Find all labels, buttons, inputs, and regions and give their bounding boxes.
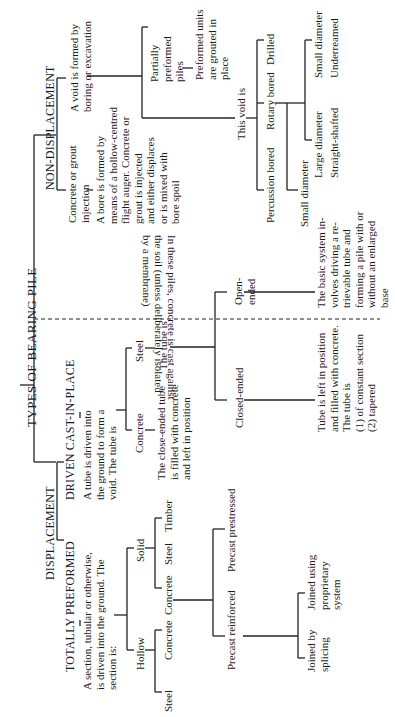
small-diameter-percussion-label: Small diameter	[298, 160, 311, 227]
steel-tube-label: Steel	[133, 340, 146, 362]
percussion-bored-label: Percussion bored	[264, 148, 277, 223]
driven-cast-in-place-heading: DRIVEN CAST-IN-PLACE	[64, 359, 77, 500]
straight-shafted-label: Straight-shafted	[328, 108, 341, 178]
precast-prestressed-label: Precast prestressed	[225, 489, 238, 572]
solid-steel-label: Steel	[162, 543, 175, 565]
displacement-heading: DISPLACEMENT	[44, 486, 57, 580]
grout-injection-label: Concrete or grout injection	[66, 145, 91, 223]
closed-ended-description: Tube is left in position and filled with…	[315, 325, 378, 432]
joined-proprietary-label: Joined using proprietary system	[305, 555, 343, 610]
solid-label: Solid	[134, 539, 147, 562]
this-void-is-label: This void is	[235, 88, 248, 140]
open-ended-label: Open- ended	[232, 278, 257, 306]
hollow-steel-label: Steel	[162, 690, 175, 712]
hollow-concrete-label: Concrete	[162, 620, 175, 660]
open-ended-description: The basic system in- volves driving a re…	[315, 211, 390, 308]
driven-cast-in-place-description: A tube is driven into the ground to form…	[81, 410, 119, 500]
partially-preformed-description: Preformed units are grouted in place	[193, 9, 231, 80]
steel-tube-is-label: The tube is	[157, 321, 170, 370]
closed-ended-label: Closed-ended	[233, 368, 246, 428]
rotary-bored-label: Rotary bored	[264, 72, 277, 130]
precast-reinforced-label: Precast reinforced	[225, 590, 238, 670]
partially-preformed-label: Partially preformed piles	[148, 36, 186, 82]
totally-preformed-heading: TOTALLY PREFORMED	[64, 541, 77, 672]
void-formed-label: A void is formed by boring or excavation	[68, 21, 93, 112]
grout-injection-description: A bore is formed by means of a hollow-ce…	[94, 107, 182, 224]
drilled-label: Drilled	[264, 34, 277, 65]
totally-preformed-description: A section, tubular or otherwise, is driv…	[81, 552, 119, 690]
concrete-tube-label: Concrete	[133, 413, 146, 453]
concrete-tube-description: The close-ended tube is filled with conc…	[155, 384, 193, 480]
bearing-pile-diagram: TYPES OF BEARING PILE NON-DISPLACEMENT C…	[0, 0, 395, 717]
hollow-label: Hollow	[134, 637, 147, 670]
solid-timber-label: Timber	[162, 500, 175, 532]
small-diameter-label: Small diameter	[312, 11, 325, 78]
divider-note: In these piles, concrete is cast against…	[141, 235, 179, 400]
non-displacement-heading: NON-DISPLACEMENT	[44, 65, 57, 190]
underreamed-label: Underreamed	[328, 18, 341, 78]
solid-concrete-label: Concrete	[162, 575, 175, 615]
joined-by-splicing-label: Joined by splicing	[305, 630, 330, 672]
large-diameter-label: Large diameter	[312, 111, 325, 178]
diagram-title: TYPES OF BEARING PILE	[26, 267, 39, 427]
